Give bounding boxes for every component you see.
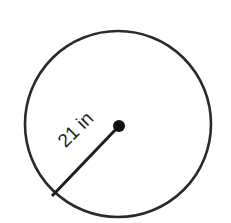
center-point <box>113 120 125 132</box>
radius-label: 21 in <box>53 107 97 151</box>
circle-diagram: 21 in <box>0 0 231 223</box>
diagram-canvas: 21 in <box>0 0 231 223</box>
